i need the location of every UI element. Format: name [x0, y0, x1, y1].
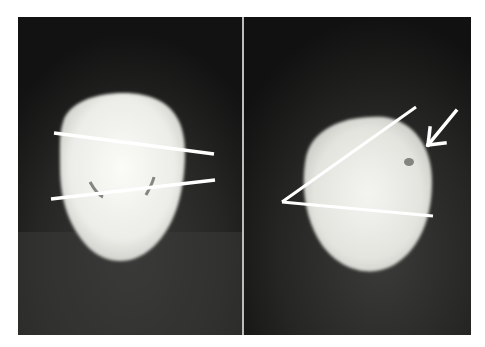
figure-frame	[18, 17, 471, 335]
right-panel	[244, 17, 471, 335]
left-panel	[18, 17, 242, 335]
right-photo	[244, 17, 471, 335]
left-photo	[18, 17, 242, 335]
